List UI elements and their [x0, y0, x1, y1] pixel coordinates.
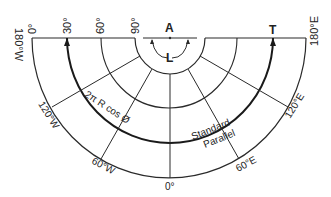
label-angle-l: L [166, 51, 173, 65]
label-0: 0° [165, 181, 175, 192]
label-lat-30: 30° [61, 17, 73, 34]
angle-arrow-left-icon [150, 39, 154, 44]
label-lat-90: 90° [129, 17, 141, 34]
label-point-a: A [165, 21, 174, 35]
label-point-t: T [269, 23, 277, 37]
label-180w: 180°W [13, 28, 25, 62]
lat-60-arc [101, 38, 237, 108]
label-lat-60: 60° [94, 17, 106, 34]
point-a-dot [169, 37, 171, 39]
label-180e: 180°E [308, 16, 320, 46]
arrow-up-left-icon [64, 38, 70, 46]
meridian-120e [200, 56, 288, 107]
arrow-up-right-icon [270, 38, 276, 46]
label-circumference: 2π R cos Ø [83, 88, 132, 125]
angle-arrow-right-icon [186, 39, 190, 44]
label-60w: 60°W [90, 155, 117, 177]
polar-projection-diagram: 0° 30° 60° 90° 180°W 180°E A L T 120°W 6… [0, 0, 331, 197]
label-lat-0: 0° [26, 23, 38, 34]
